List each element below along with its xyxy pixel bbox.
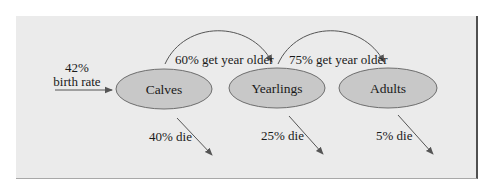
death-label: 5% die	[376, 128, 413, 143]
transition-calves-yearlings: 60% get year older	[165, 31, 274, 67]
node-calves: Calves	[116, 69, 212, 109]
node-label: Calves	[146, 82, 183, 97]
death-label: 25% die	[261, 128, 304, 143]
death-label: 40% die	[149, 129, 192, 144]
transition-yearlings-adults: 75% get year older	[278, 31, 388, 67]
node-yearlings: Yearlings	[229, 68, 325, 108]
node-label: Adults	[370, 81, 406, 96]
birth-rate-input: 42% birth rate	[53, 60, 112, 90]
node-adults: Adults	[339, 68, 437, 108]
birth-rate-label: birth rate	[53, 74, 101, 89]
birth-rate-value: 42%	[65, 60, 89, 75]
transition-label: 75% get year older	[289, 52, 388, 67]
transition-label: 60% get year older	[175, 52, 274, 67]
population-flow-diagram: 42% birth rate 60% get year older 75% ge…	[0, 0, 494, 187]
death-yearlings: 25% die	[261, 116, 323, 154]
node-label: Yearlings	[251, 81, 302, 96]
death-calves: 40% die	[149, 118, 212, 155]
death-adults: 5% die	[376, 115, 433, 154]
